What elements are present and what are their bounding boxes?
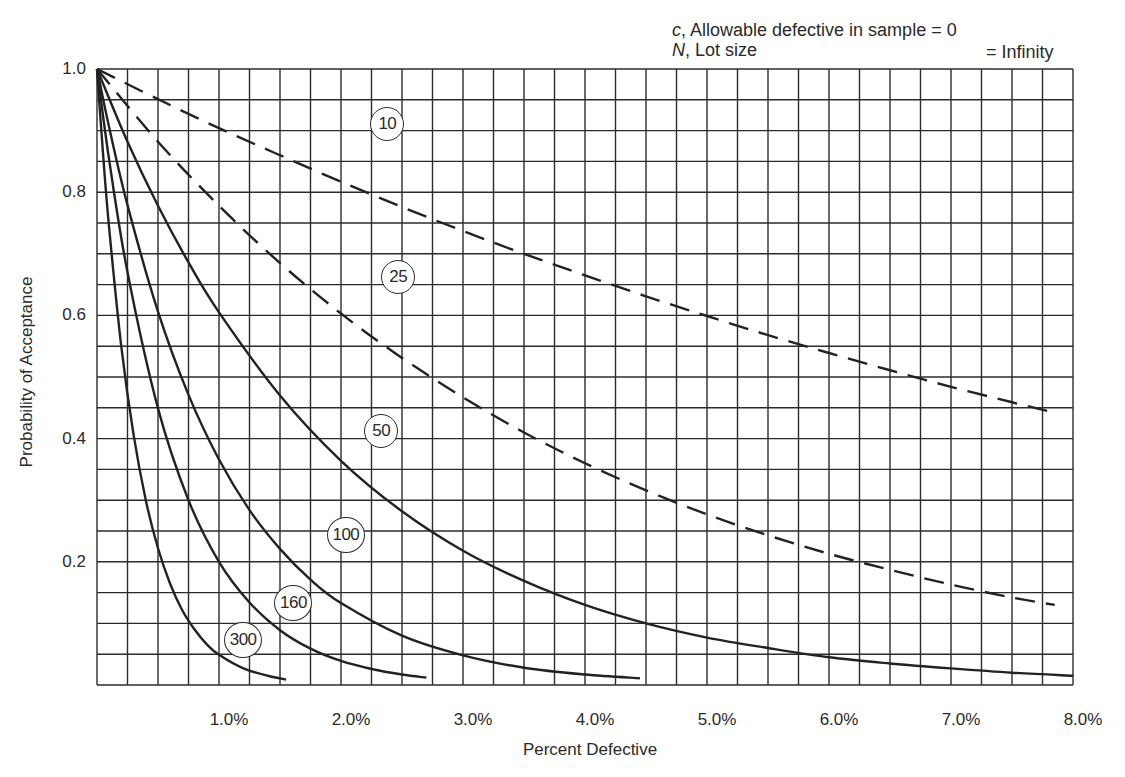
x-tick-label: 3.0%	[454, 710, 493, 730]
y-tick-label: 0.6	[62, 305, 86, 325]
curve-n-300	[97, 69, 286, 679]
x-tick-label: 1.0%	[210, 710, 249, 730]
curve-label-n-300: 300	[224, 622, 262, 658]
chart-plot-area	[0, 0, 1125, 777]
x-tick-label: 7.0%	[942, 710, 981, 730]
x-tick-label: 5.0%	[698, 710, 737, 730]
curve-n-100	[97, 69, 640, 678]
y-tick-label: 1.0	[62, 59, 86, 79]
curve-label-n-25: 25	[381, 260, 415, 294]
annotation-line-2-value: = Infinity	[986, 42, 1054, 62]
curve-label-n-50: 50	[364, 414, 398, 448]
x-tick-label: 8.0%	[1064, 710, 1103, 730]
grid-lines	[97, 69, 1073, 685]
annotation-line-1: c, Allowable defective in sample = 0	[672, 20, 957, 40]
y-axis-title: Probability of Acceptance	[17, 277, 37, 468]
curve-label-n-10: 10	[370, 107, 404, 141]
curve-n-10	[97, 69, 1055, 413]
annotation-line-2: N, Lot size	[672, 40, 757, 60]
x-tick-label: 6.0%	[820, 710, 859, 730]
x-tick-label: 2.0%	[332, 710, 371, 730]
curve-label-n-100: 100	[327, 517, 365, 553]
y-tick-label: 0.4	[62, 429, 86, 449]
x-axis-title: Percent Defective	[523, 740, 657, 760]
curve-label-n-160: 160	[274, 585, 312, 621]
y-tick-label: 0.2	[62, 552, 86, 572]
curve-n-25	[97, 69, 1055, 605]
x-tick-label: 4.0%	[576, 710, 615, 730]
y-tick-label: 0.8	[62, 182, 86, 202]
